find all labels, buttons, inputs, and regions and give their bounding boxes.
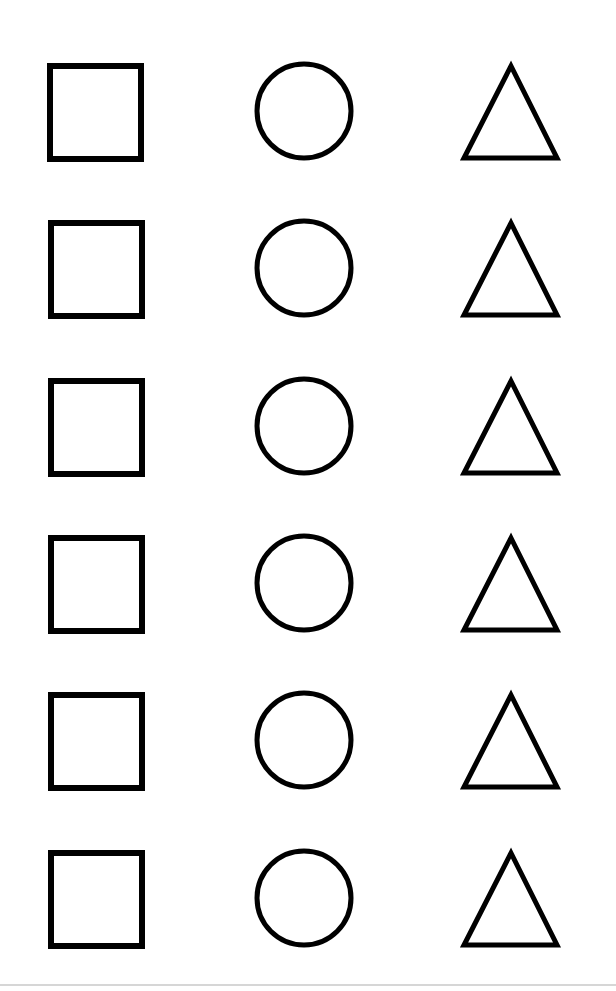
circle-shape: [250, 689, 360, 799]
triangle-shape: [456, 217, 566, 327]
shape-row-2: [0, 217, 616, 327]
square-shape: [44, 847, 150, 953]
triangle-shape: [456, 689, 566, 799]
page-bottom-edge: [0, 984, 616, 986]
triangle-shape: [456, 847, 566, 957]
square-shape: [44, 689, 150, 795]
shape-row-5: [0, 689, 616, 799]
square-shape: [44, 532, 150, 638]
square-shape: [44, 375, 150, 481]
shape-row-4: [0, 532, 616, 642]
circle-shape: [250, 217, 360, 327]
circle-shape: [250, 60, 360, 170]
shapes-worksheet: [0, 0, 616, 991]
circle-shape: [250, 375, 360, 485]
circle-shape: [250, 847, 360, 957]
shape-row-1: [0, 60, 616, 170]
shape-row-3: [0, 375, 616, 485]
square-shape: [44, 60, 150, 166]
shape-row-6: [0, 847, 616, 957]
square-shape: [44, 217, 150, 323]
triangle-shape: [456, 532, 566, 642]
triangle-shape: [456, 375, 566, 485]
triangle-shape: [456, 60, 566, 170]
circle-shape: [250, 532, 360, 642]
